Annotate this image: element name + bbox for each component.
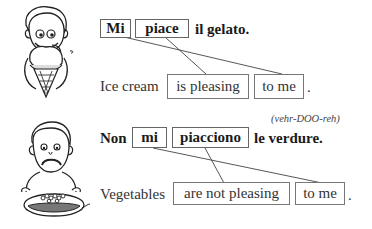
italian-box-mi-2: mi — [132, 127, 167, 148]
english-box-to-me-1: to me — [254, 74, 304, 99]
italian-rest-le-verdure: le verdure. — [254, 131, 323, 146]
english-box-is-pleasing: is pleasing — [167, 74, 249, 99]
english-box-to-me-2: to me — [295, 182, 345, 205]
period-2: . — [348, 188, 352, 203]
phrase-to-me-2: to me — [303, 185, 337, 202]
english-lead-vegetables: Vegetables — [100, 187, 165, 202]
word-piacciono: piacciono — [180, 129, 241, 146]
period-1: . — [307, 80, 311, 95]
english-box-are-not-pleasing: are not pleasing — [173, 182, 290, 205]
phrase-is-pleasing: is pleasing — [176, 78, 240, 95]
italian-rest-il-gelato: il gelato. — [195, 22, 249, 37]
italian-box-piace: piace — [135, 19, 189, 38]
phrase-to-me-1: to me — [262, 78, 296, 95]
word-mi-2: mi — [141, 129, 158, 146]
italian-lead-non: Non — [100, 131, 127, 146]
pronunciation-verdure: (vehr-DOO-reh) — [271, 114, 340, 125]
english-lead-ice-cream: Ice cream — [100, 79, 159, 94]
italian-box-piacciono: piacciono — [172, 127, 249, 148]
word-mi: Mi — [106, 20, 124, 37]
phrase-are-not-pleasing: are not pleasing — [184, 185, 279, 202]
word-piace: piace — [145, 20, 178, 37]
italian-box-mi: Mi — [100, 19, 131, 38]
